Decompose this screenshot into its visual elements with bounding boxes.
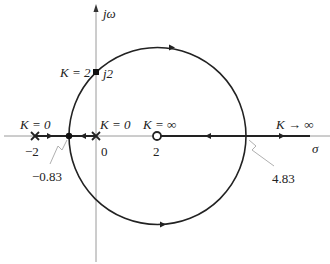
breakaway-leader: [50, 140, 67, 164]
zero-gain-label: K = ∞: [143, 118, 176, 131]
imag-axis-arrow-icon: [94, 4, 99, 12]
arrow-left-icon: [80, 133, 86, 139]
arrow-bottom-icon: [160, 222, 166, 228]
tick-zero: 0: [101, 145, 108, 158]
zero-icon: [153, 132, 161, 140]
asymptote-label: K → ∞: [276, 118, 313, 131]
pole-minus-two-gain-label: K = 0: [20, 118, 50, 131]
arrow-right-icon: [47, 133, 53, 139]
arrow-right-icon: [279, 133, 285, 139]
breakaway-point-icon: [66, 133, 72, 139]
break-in-leader: [249, 140, 274, 166]
real-axis-label: σ: [312, 142, 318, 155]
arrow-left-icon: [205, 133, 211, 139]
tick-two: 2: [153, 145, 160, 158]
imag-axis-label: jω: [103, 7, 116, 20]
crossing-gain-label: K = 2: [60, 66, 90, 79]
pole-zero-gain-label: K = 0: [100, 118, 130, 131]
root-locus-diagram: jω σ K = 2 j2 K = 0 K = 0 K = ∞ K → ∞ −2…: [0, 0, 330, 264]
crossing-value-label: j2: [103, 67, 113, 80]
diagram-canvas: [0, 0, 330, 264]
break-in-value-label: 4.83: [272, 172, 295, 185]
tick-minus-two: −2: [25, 145, 39, 158]
breakaway-value-label: −0.83: [32, 170, 62, 183]
imag-crossing-point-icon: [93, 69, 99, 75]
